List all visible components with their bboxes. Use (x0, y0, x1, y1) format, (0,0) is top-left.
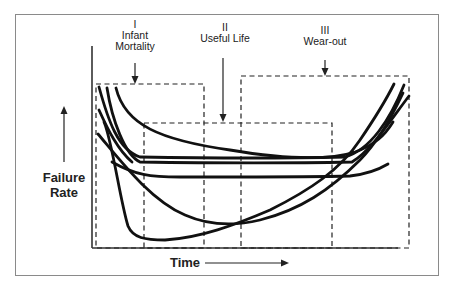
arrow-down-icon-useful-life (220, 58, 227, 122)
region-name-line1: Wear-out (295, 36, 355, 47)
arrow-down-icon-wear-out (322, 60, 329, 76)
arrow-right-icon-time (205, 260, 289, 267)
arrow-down-icon-infant-mortality (132, 63, 139, 84)
y-axis-label-line1: Failure (38, 170, 90, 185)
x-axis-label: Time (168, 255, 202, 270)
curve-flat-mid (107, 88, 409, 163)
region-name-line1: Useful Life (190, 33, 260, 44)
region-label-infant-mortality: I Infant Mortality (105, 19, 165, 52)
arrow-up-icon-failure-rate (61, 106, 68, 162)
region-box-useful-life (144, 123, 332, 248)
region-label-wear-out: III Wear-out (295, 25, 355, 47)
region-name-line2: Mortality (105, 41, 165, 52)
curve-flat-high (99, 85, 404, 158)
y-axis-label-line2: Rate (38, 185, 90, 200)
region-label-useful-life: II Useful Life (190, 22, 260, 44)
y-axis-label: Failure Rate (38, 170, 90, 200)
